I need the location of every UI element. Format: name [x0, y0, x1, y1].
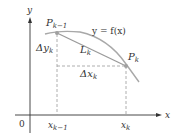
tick-xk-1: xk−1 — [48, 120, 68, 132]
curve-label: y = f(x) — [91, 26, 126, 36]
tick-xk: xk — [121, 120, 130, 132]
label-delta-xk: Δxk — [79, 68, 97, 81]
y-axis-arrow-icon — [28, 17, 32, 23]
origin-label: 0 — [19, 119, 25, 129]
x-axis-label: x — [165, 110, 170, 120]
chord-Lk — [57, 33, 126, 66]
point-Pk-1 — [55, 31, 59, 35]
y-axis-label: y — [26, 5, 33, 15]
label-Pk-1: Pk−1 — [45, 17, 67, 30]
label-delta-yk: Δyk — [35, 42, 53, 55]
label-Lk: Lk — [79, 44, 91, 57]
label-Pk: Pk — [127, 51, 139, 64]
arc-length-diagram: y x 0 Pk−1 Pk y = f(x) Lk Δyk Δxk xk−1 x… — [0, 0, 178, 134]
point-Pk — [124, 64, 128, 68]
x-axis-arrow-icon — [156, 113, 162, 117]
